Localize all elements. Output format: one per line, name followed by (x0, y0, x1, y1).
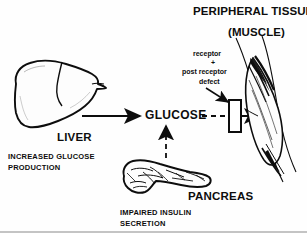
annotation-post-receptor: post receptor (182, 68, 227, 75)
label-pancreas: PANCREAS (188, 190, 253, 202)
annotation-receptor: receptor (193, 50, 221, 57)
muscle-organ-illustration (246, 56, 284, 176)
annotation-plus: + (211, 59, 215, 66)
label-glucose: GLUCOSE (145, 108, 206, 122)
title-muscle: (MUSCLE) (228, 26, 285, 38)
caption-increased-glucose: INCREASED GLUCOSE (8, 152, 95, 161)
liver-organ-illustration (15, 61, 106, 127)
pancreas-organ-illustration (123, 160, 210, 193)
label-liver: LIVER (57, 131, 92, 143)
diagram-canvas: PERIPHERAL TISSUES (MUSCLE) receptor + p… (0, 0, 307, 233)
leader-arrow-defect (206, 88, 228, 102)
caption-impaired-insulin: IMPAIRED INSULIN (120, 208, 191, 217)
annotation-defect: defect (199, 78, 220, 85)
caption-secretion: SECRETION (120, 219, 166, 228)
caption-production: PRODUCTION (8, 163, 60, 172)
receptor-defect-block (229, 100, 241, 132)
title-peripheral-tissues: PERIPHERAL TISSUES (193, 5, 307, 17)
